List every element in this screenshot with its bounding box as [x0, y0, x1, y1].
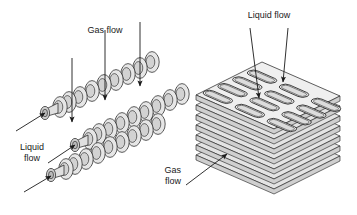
diagram-canvas: Gas flow Liquid flow: [0, 0, 357, 215]
heat-exchanger-diagram: Gas flow Liquid flow: [0, 0, 357, 215]
gas-flow-label-right-line2: flow: [165, 176, 182, 186]
liquid-flow-label-left-line1: Liquid: [20, 142, 44, 152]
gas-flow-label-left: Gas flow: [87, 25, 123, 35]
liquid-flow-label-right: Liquid flow: [248, 10, 291, 20]
gas-flow-label-right-line1: Gas: [164, 165, 181, 175]
liquid-flow-label-left-line2: flow: [24, 153, 41, 163]
